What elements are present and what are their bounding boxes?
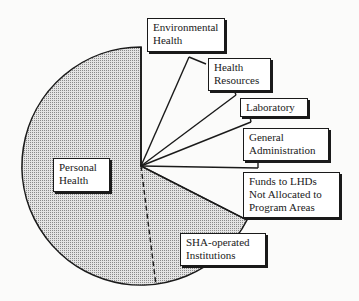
label-health-resources: Health Resources <box>208 58 271 91</box>
label-environmental-health: Environmental Health <box>147 18 225 52</box>
label-sha-operated: SHA-operated Institutions <box>180 233 266 266</box>
leader-env <box>189 57 206 64</box>
label-funds-to-lhds: Funds to LHDs Not Allocated to Program A… <box>243 172 340 218</box>
boundary-admin-funds <box>141 166 258 168</box>
label-laboratory: Laboratory <box>240 98 308 117</box>
label-personal-health: Personal Health <box>53 158 110 192</box>
label-general-administration: General Administration <box>243 128 329 161</box>
boundary-hr-lab <box>141 95 236 166</box>
leader-lab <box>250 117 251 122</box>
